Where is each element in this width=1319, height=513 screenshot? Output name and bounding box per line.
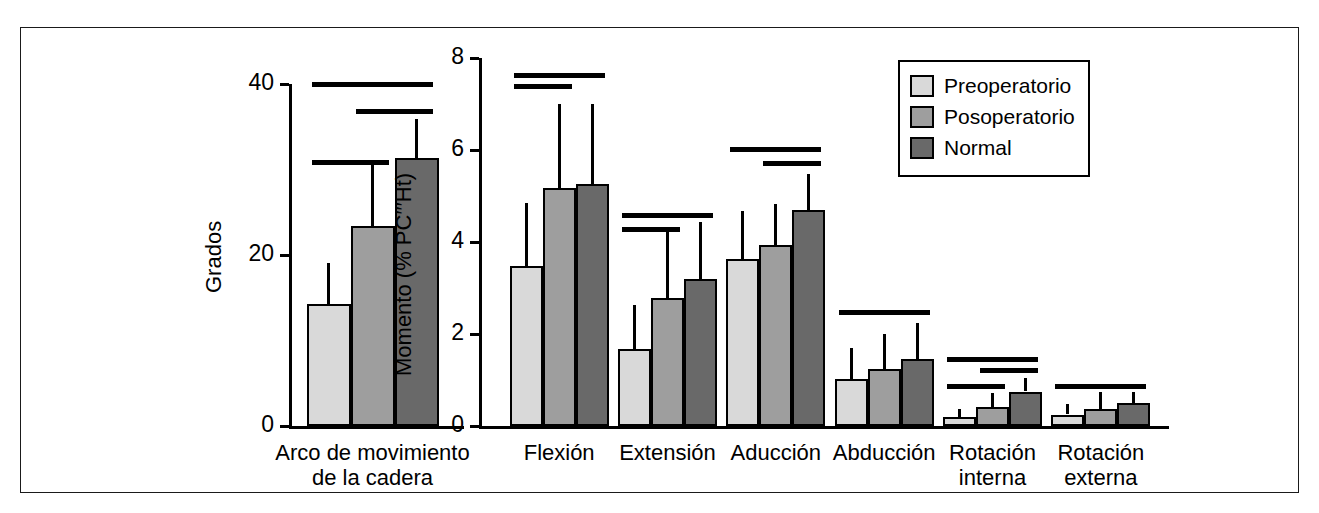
- error-bar-rotacion-interna-posoperatorio: [991, 393, 994, 407]
- significance-bar-aduccion-1-3: [730, 147, 821, 152]
- error-bar-rotacion-interna-normal: [1024, 378, 1027, 392]
- error-bar-abduccion-preoperatorio: [850, 348, 853, 379]
- legend-swatch-posoperatorio: [910, 106, 934, 128]
- legend-label-posoperatorio: Posoperatorio: [944, 106, 1075, 127]
- y-axis-line: [289, 84, 292, 429]
- error-bar-arco-de-movimiento-de-la-cadera-posoperatorio: [371, 164, 374, 226]
- bar-rotacion-interna-posoperatorio: [976, 407, 1009, 426]
- figure-root: 02040GradosArco de movimiento de la cade…: [0, 0, 1319, 513]
- y-axis-title: Grados: [201, 221, 227, 293]
- y-axis-tick-label-8: 8: [404, 45, 464, 68]
- significance-bar-arco-de-movimiento-de-la-cadera-1-3: [312, 82, 433, 87]
- error-bar-rotacion-externa-preoperatorio: [1066, 404, 1069, 415]
- y-axis-tick: [470, 57, 479, 60]
- error-bar-aduccion-posoperatorio: [774, 204, 777, 245]
- bar-flexion-normal: [576, 184, 609, 426]
- significance-bar-extension-1-3: [622, 213, 713, 218]
- y-axis-tick-label-6: 6: [404, 137, 464, 160]
- significance-bar-flexion-1-3: [514, 73, 605, 78]
- error-bar-extension-preoperatorio: [633, 305, 636, 349]
- bar-aduccion-normal: [792, 210, 825, 426]
- error-bar-rotacion-interna-preoperatorio: [958, 409, 961, 417]
- significance-bar-rotacion-interna-2-3: [980, 368, 1038, 373]
- legend-item: Normal: [910, 132, 1072, 163]
- bar-aduccion-posoperatorio: [759, 245, 792, 426]
- y-axis-tick: [470, 241, 479, 244]
- y-axis-tick-label-0: 0: [404, 413, 464, 436]
- significance-bar-rotacion-interna-1-2: [947, 384, 1005, 389]
- legend-swatch-normal: [910, 137, 934, 159]
- bar-extension-normal: [684, 279, 717, 426]
- bar-extension-preoperatorio: [618, 349, 651, 426]
- y-axis-tick: [280, 83, 289, 86]
- significance-bar-flexion-1-2: [514, 84, 572, 89]
- bar-rotacion-externa-posoperatorio: [1084, 409, 1117, 426]
- error-bar-flexion-preoperatorio: [525, 203, 528, 266]
- significance-bar-abduccion-1-3: [839, 310, 930, 315]
- error-bar-aduccion-normal: [807, 174, 810, 210]
- bar-rotacion-interna-normal: [1009, 392, 1042, 427]
- error-bar-rotacion-externa-posoperatorio: [1099, 392, 1102, 408]
- x-axis-line: [479, 426, 1169, 429]
- legend-item: Posoperatorio: [910, 101, 1072, 132]
- error-bar-rotacion-externa-normal: [1132, 392, 1135, 404]
- y-axis-tick: [470, 333, 479, 336]
- legend-item: Preoperatorio: [910, 70, 1072, 101]
- y-axis-tick: [470, 149, 479, 152]
- significance-bar-rotacion-externa-1-3: [1055, 384, 1146, 389]
- bar-arco-de-movimiento-de-la-cadera-preoperatorio: [307, 304, 351, 426]
- error-bar-extension-normal: [699, 222, 702, 279]
- y-axis-tick-label-40: 40: [214, 71, 274, 94]
- y-axis-tick: [470, 425, 479, 428]
- y-axis-tick-label-0: 0: [214, 413, 274, 436]
- legend-label-normal: Normal: [944, 137, 1012, 158]
- legend: Preoperatorio Posoperatorio Normal: [898, 60, 1090, 177]
- significance-bar-rotacion-interna-1-3: [947, 357, 1038, 362]
- error-bar-abduccion-posoperatorio: [883, 334, 886, 369]
- bar-abduccion-normal: [901, 359, 934, 426]
- x-axis-category-label-rotacion-externa: Rotación externa: [1026, 440, 1176, 490]
- bar-rotacion-interna-preoperatorio: [943, 417, 976, 426]
- bar-aduccion-preoperatorio: [726, 259, 759, 426]
- y-axis-tick: [280, 425, 289, 428]
- y-axis-title: Momento (% PC′′′Ht): [391, 173, 417, 376]
- bar-rotacion-externa-normal: [1117, 403, 1150, 426]
- significance-bar-aduccion-2-3: [763, 161, 821, 166]
- bar-abduccion-posoperatorio: [868, 369, 901, 427]
- figure-frame: 02040GradosArco de movimiento de la cade…: [20, 27, 1299, 493]
- y-axis-tick: [280, 254, 289, 257]
- legend-label-preoperatorio: Preoperatorio: [944, 75, 1071, 96]
- error-bar-flexion-normal: [591, 104, 594, 184]
- error-bar-flexion-posoperatorio: [558, 104, 561, 188]
- bar-abduccion-preoperatorio: [835, 379, 868, 426]
- bar-flexion-posoperatorio: [543, 188, 576, 426]
- significance-bar-extension-1-2: [622, 227, 680, 232]
- error-bar-abduccion-normal: [916, 323, 919, 360]
- bar-flexion-preoperatorio: [510, 266, 543, 426]
- legend-swatch-preoperatorio: [910, 75, 934, 97]
- error-bar-arco-de-movimiento-de-la-cadera-preoperatorio: [327, 263, 330, 304]
- significance-bar-arco-de-movimiento-de-la-cadera-1-2: [312, 160, 389, 165]
- y-axis-line: [479, 58, 482, 429]
- bar-rotacion-externa-preoperatorio: [1051, 415, 1084, 427]
- error-bar-extension-posoperatorio: [666, 231, 669, 298]
- error-bar-aduccion-preoperatorio: [741, 211, 744, 259]
- bar-arco-de-movimiento-de-la-cadera-posoperatorio: [351, 226, 395, 426]
- bar-extension-posoperatorio: [651, 298, 684, 426]
